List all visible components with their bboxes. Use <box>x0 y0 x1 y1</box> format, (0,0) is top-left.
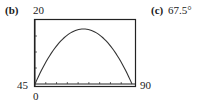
trajectory-curve <box>35 29 132 84</box>
plot-area <box>0 0 199 101</box>
